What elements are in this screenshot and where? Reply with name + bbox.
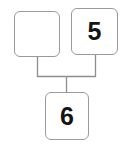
bottom-node-label: 6	[60, 104, 74, 129]
top-left-node[interactable]	[14, 11, 60, 57]
bottom-node[interactable]: 6	[45, 92, 89, 140]
edge-right-to-junction	[67, 55, 96, 77]
diagram-canvas: 5 6	[0, 0, 133, 153]
top-right-node[interactable]: 5	[71, 8, 118, 55]
edge-left-to-junction	[38, 57, 67, 77]
top-right-node-label: 5	[88, 19, 102, 44]
